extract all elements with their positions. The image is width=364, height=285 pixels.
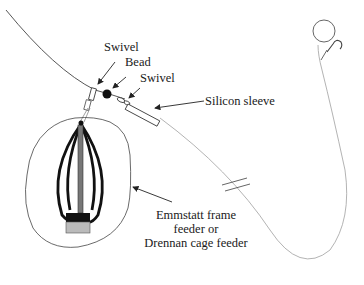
- arrow-swivel-top: [98, 62, 115, 84]
- feeder-rig-diagram: Swivel Bead Swivel Silicon sleeve Emmsta…: [0, 0, 364, 285]
- feeder-weight-bottom: [66, 222, 90, 233]
- swivel-top: [84, 88, 97, 111]
- label-feeder-line3: Drennan cage feeder: [130, 236, 262, 250]
- label-swivel-bottom: Swivel: [140, 71, 175, 85]
- arrow-bead: [113, 77, 126, 88]
- label-feeder-line1: Emmstatt frame: [130, 208, 262, 222]
- label-silicon-sleeve: Silicon sleeve: [205, 94, 275, 108]
- label-feeder: Emmstatt frame feeder or Drennan cage fe…: [130, 208, 262, 250]
- arrow-silicon-sleeve: [155, 101, 204, 108]
- break-mark: [222, 178, 250, 191]
- arrow-feeder: [133, 187, 172, 202]
- feeder-weight-top: [66, 213, 90, 222]
- arrow-swivel-bottom: [129, 88, 140, 98]
- feeder-spine: [78, 125, 83, 213]
- main-line: [6, 10, 125, 99]
- hook: [327, 40, 342, 52]
- label-feeder-line2: feeder or: [130, 222, 262, 236]
- silicon-sleeve: [125, 104, 160, 126]
- bait: [313, 20, 335, 42]
- bead: [103, 90, 112, 99]
- label-swivel-top: Swivel: [104, 40, 139, 54]
- label-bead: Bead: [125, 55, 151, 69]
